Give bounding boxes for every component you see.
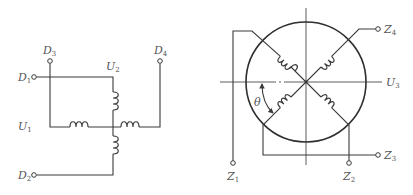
left-diagram: D1 D2 D3 D4 U1 U2: [17, 44, 168, 183]
wire-ur-inner: [306, 67, 321, 82]
label-z4: Z4: [383, 23, 397, 37]
wire-ll-outer: [263, 108, 376, 155]
coil-right: [121, 122, 139, 127]
label-u1: U1: [18, 120, 32, 134]
wire-lr-inner: [306, 82, 321, 97]
coil-upper: [113, 92, 118, 110]
terminal-d2: [32, 173, 37, 178]
label-d1: D1: [17, 71, 31, 85]
terminal-z1: [231, 161, 236, 166]
diagram-canvas: D1 D2 D3 D4 U1 U2: [0, 0, 413, 195]
wire-d4: [139, 64, 160, 128]
coil-left: [70, 122, 88, 127]
wire-ur-outer: [332, 29, 376, 56]
wire-ul-inner: [291, 67, 306, 82]
coil-ur: [321, 56, 335, 70]
label-d2: D2: [17, 169, 31, 183]
coil-ul: [277, 56, 291, 70]
wire-d3: [50, 64, 70, 128]
terminal-d1: [32, 75, 37, 80]
label-theta: θ: [254, 96, 261, 109]
label-d4: D4: [153, 44, 168, 58]
terminal-z2: [347, 161, 352, 166]
label-z1: Z1: [226, 170, 239, 184]
terminal-d4: [158, 59, 163, 64]
label-z2: Z2: [342, 170, 355, 184]
coil-ll: [277, 93, 291, 107]
coil-lr: [321, 93, 335, 107]
right-diagram: Z1 Z2 Z3 Z4 U3 θ: [220, 8, 400, 184]
coil-lower: [113, 136, 118, 154]
wire-ll-inner: [291, 82, 306, 97]
theta-arc: [262, 84, 273, 113]
terminal-z4: [376, 27, 381, 32]
label-z3: Z3: [383, 149, 396, 163]
terminal-z3: [376, 153, 381, 158]
terminal-d3: [48, 59, 53, 64]
label-d3: D3: [42, 44, 56, 58]
label-u2: U2: [106, 60, 120, 74]
wire-d2: [37, 154, 114, 175]
label-u3: U3: [386, 76, 400, 90]
wire-d1: [37, 77, 114, 92]
